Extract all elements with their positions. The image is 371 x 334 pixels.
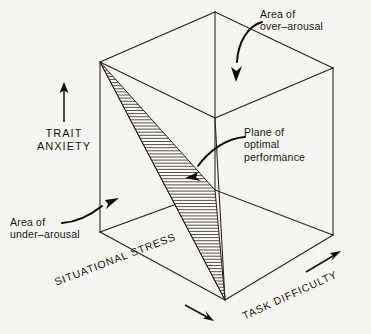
under-arousal-label: Area ofunder–arousal xyxy=(10,216,80,241)
trait-anxiety-label-line1: TRAIT xyxy=(46,127,83,139)
cube-edge-bottom-right xyxy=(225,235,333,300)
under-arousal-line2: under–arousal xyxy=(10,228,80,240)
trait-anxiety-arrow xyxy=(60,82,69,122)
over-arousal-pointer xyxy=(231,22,262,82)
cube-edge-top-back-left xyxy=(100,12,215,62)
trait-anxiety-label: TRAITANXIETY xyxy=(26,127,102,153)
plane-optimal-line2: optimal xyxy=(244,138,279,150)
over-arousal-label: Area ofover–arousal xyxy=(260,8,323,33)
cube-edge-bottom-back-right xyxy=(215,190,333,235)
diagram-root: TRAITANXIETY Area ofover–arousal Area of… xyxy=(0,0,371,334)
situational-stress-arrow xyxy=(185,305,214,321)
task-difficulty-arrow xyxy=(306,251,341,272)
plane-optimal-line3: performance xyxy=(244,151,305,163)
over-arousal-line2: over–arousal xyxy=(260,20,323,32)
cube-edge-top-front-right xyxy=(215,68,333,118)
over-arousal-line1: Area of xyxy=(260,8,295,20)
under-arousal-line1: Area of xyxy=(10,216,45,228)
plane-optimal-line1: Plane of xyxy=(244,126,284,138)
plane-optimal-label: Plane ofoptimalperformance xyxy=(244,126,305,163)
trait-anxiety-label-line2: ANXIETY xyxy=(37,140,91,152)
